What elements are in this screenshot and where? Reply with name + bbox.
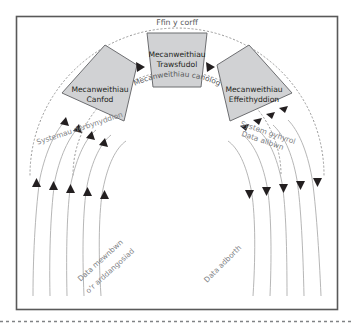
figure-canvas: Mecanweithiau Canfod Mecanweithiau Traws…: [0, 0, 353, 328]
block-effeithyddion-line2: Effeithyddion: [229, 95, 279, 104]
block-canfod-line1: Mecanweithiau: [71, 85, 128, 94]
block-canfod-line2: Canfod: [87, 95, 114, 104]
process-flow-diagram: Mecanweithiau Canfod Mecanweithiau Traws…: [0, 0, 353, 328]
block-trawsfudol-line1: Mecanweithiau: [148, 50, 205, 59]
body-boundary-label: Ffin y corff: [156, 18, 198, 27]
block-effeithyddion-line1: Mecanweithiau: [225, 85, 282, 94]
block-trawsfudol-line2: Trawsfudol: [156, 60, 198, 69]
